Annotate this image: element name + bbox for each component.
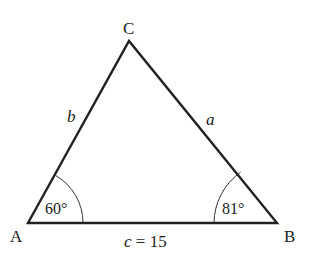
side-b-label: b xyxy=(67,108,76,125)
side-c-value: = 15 xyxy=(136,232,167,251)
side-a-label: a xyxy=(206,111,215,128)
triangle-diagram: C A B b a c = 15 60° 81° xyxy=(0,0,310,261)
angle-a-label: 60° xyxy=(45,201,67,217)
triangle-outline xyxy=(28,41,277,223)
vertex-c-label: C xyxy=(123,20,134,37)
side-c-label: c = 15 xyxy=(124,233,167,250)
side-c-variable: c xyxy=(124,232,132,251)
vertex-b-label: B xyxy=(284,228,295,245)
vertex-a-label: A xyxy=(10,228,22,245)
angle-b-label: 81° xyxy=(222,201,244,217)
triangle-figure xyxy=(0,0,310,261)
